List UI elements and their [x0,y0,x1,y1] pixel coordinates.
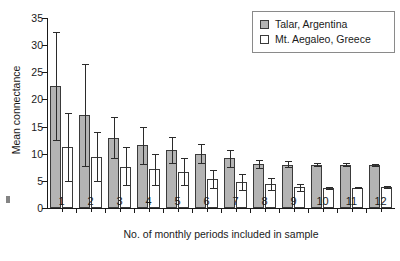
x-axis-tick-mark [163,208,164,213]
error-bar-cap-upper [152,154,159,155]
error-bar-cap-upper [140,127,147,128]
x-axis-tick-label: 2 [87,196,93,207]
error-bar-cap-upper [268,178,275,179]
x-axis-tick-label: 8 [261,196,267,207]
x-axis-tick-mark [221,208,222,213]
error-bar-cap-lower [227,167,234,168]
error-bar-line [184,158,185,186]
x-axis-tick-label: 6 [203,196,209,207]
error-bar-line [213,170,214,188]
x-axis-tick-mark-minor [149,208,150,212]
error-bar-cap-lower [210,188,217,189]
error-bar-cap-upper [256,160,263,161]
error-bar-cap-upper [169,137,176,138]
legend-swatch-empty-white-square [260,35,269,44]
x-axis-tick-label: 12 [374,196,386,207]
error-bar-line [172,137,173,163]
error-bar-line [271,178,272,190]
x-axis-tick-mark [134,208,135,213]
y-axis-line [47,18,48,208]
x-axis-tick-mark-minor [352,208,353,212]
x-axis-tick-mark [308,208,309,213]
crop-artifact [6,196,10,203]
x-axis-tick-mark-minor [265,208,266,212]
error-bar-cap-lower [111,158,118,159]
x-axis-tick-label: 7 [232,196,238,207]
error-bar-line [230,150,231,167]
x-axis-tick-mark-minor [91,208,92,212]
x-axis-tick-mark-minor [120,208,121,212]
error-bar-cap-upper [326,187,333,188]
error-bar-cap-lower [384,188,391,189]
x-axis-tick-mark-minor [178,208,179,212]
x-axis-tick-mark [192,208,193,213]
error-bar-line [201,144,202,164]
error-bar-cap-lower [53,140,60,141]
error-bar-cap-lower [65,181,72,182]
x-axis-tick-mark [76,208,77,213]
error-bar-cap-upper [210,170,217,171]
x-axis-tick-mark [366,208,367,213]
x-axis-tick-label: 4 [145,196,151,207]
x-axis-tick-label: 3 [116,196,122,207]
x-axis-tick-mark-minor [207,208,208,212]
x-axis-title: No. of monthly periods included in sampl… [47,228,395,240]
error-bar-line [143,127,144,164]
x-axis-tick-label: 5 [174,196,180,207]
y-axis-tick-label: 15 [31,121,43,132]
error-bar-cap-upper [285,161,292,162]
error-bar-cap-lower [123,185,130,186]
x-axis-tick-mark-minor [323,208,324,212]
error-bar-cap-lower [140,164,147,165]
error-bar-line [85,64,86,166]
error-bar-cap-lower [82,166,89,167]
y-axis-title: Mean connectance [9,50,23,170]
x-axis-tick-mark [105,208,106,213]
error-bar-cap-lower [256,168,263,169]
x-axis-tick-mark-minor [62,208,63,212]
error-bar-line [97,132,98,181]
y-axis-tick-label: 25 [31,67,43,78]
error-bar-line [114,117,115,158]
error-bar-cap-upper [314,163,321,164]
error-bar-cap-upper [94,132,101,133]
error-bar-cap-upper [198,144,205,145]
y-axis-tick-label: 10 [31,148,43,159]
error-bar-line [56,32,57,141]
error-bar-cap-upper [82,64,89,65]
error-bar-cap-upper [65,113,72,114]
error-bar-cap-lower [152,185,159,186]
y-axis-tick-label: 30 [31,40,43,51]
y-axis-tick-label: 20 [31,94,43,105]
x-axis-tick-mark [279,208,280,213]
error-bar-cap-upper [227,150,234,151]
y-axis-tick-label: 35 [31,13,43,24]
x-axis-tick-label: 9 [290,196,296,207]
error-bar-cap-upper [181,158,188,159]
error-bar-cap-lower [355,188,362,189]
error-bar-cap-lower [314,166,321,167]
legend-swatch-filled-gray-square [260,20,269,29]
x-axis-tick-mark [250,208,251,213]
error-bar-cap-lower [181,185,188,186]
error-bar-cap-upper [297,184,304,185]
error-bar-cap-lower [343,166,350,167]
x-axis-title-label: No. of monthly periods included in sampl… [124,228,319,240]
error-bar-cap-upper [384,186,391,187]
error-bar-cap-upper [123,147,130,148]
error-bar-cap-lower [198,163,205,164]
error-bar-line [68,113,69,181]
error-bar-cap-lower [285,167,292,168]
y-axis-title-label: Mean connectance [10,66,22,155]
legend-item-talar-argentina: Talar, Argentina [260,17,386,32]
error-bar-cap-upper [53,32,60,33]
x-axis-tick-label: 1 [58,196,64,207]
y-axis-tick-label: 5 [37,176,43,187]
error-bar-cap-lower [239,190,246,191]
error-bar-cap-upper [343,163,350,164]
error-bar-cap-lower [169,163,176,164]
x-axis-tick-label: 10 [316,196,328,207]
error-bar-cap-lower [297,191,304,192]
legend-label: Mt. Aegaleo, Greece [275,34,371,45]
x-axis-tick-mark-minor [236,208,237,212]
